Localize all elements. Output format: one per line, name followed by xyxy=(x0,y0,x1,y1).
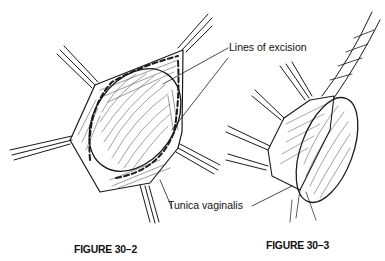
retractor-top-right xyxy=(178,14,212,52)
caption-figure-30-2: FIGURE 30–2 xyxy=(74,243,137,255)
spermatic-cord xyxy=(322,12,380,98)
retractor-bottom xyxy=(140,185,159,223)
label-tunica-vaginalis: Tunica vaginalis xyxy=(168,199,243,211)
retractor-left xyxy=(10,136,72,160)
retractor-right xyxy=(176,144,220,174)
label-lines-of-excision: Lines of excision xyxy=(229,41,307,53)
surgical-illustration xyxy=(0,0,385,261)
retractor-left-top xyxy=(57,46,98,88)
caption-figure-30-3: FIGURE 30–3 xyxy=(266,239,329,251)
